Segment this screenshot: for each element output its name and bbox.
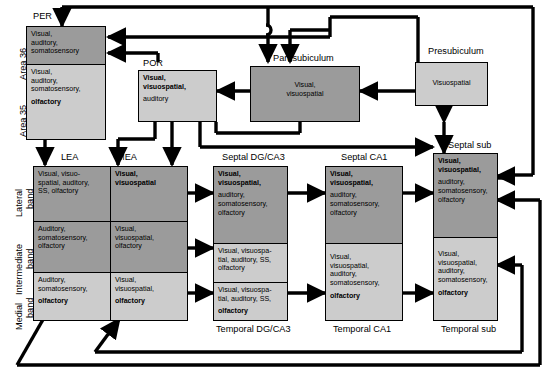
septal-ca1-text-bold: Visual, visuospatial, <box>326 167 402 190</box>
septal-sub-text-normal: auditory, somatosensory, olfactory <box>434 175 497 207</box>
label-septal-sub: Septal sub <box>448 140 491 150</box>
temporal-sub-text-normal: Visual, visuospatial, auditory, somatose… <box>434 238 497 288</box>
box-sub[interactable]: Visual, visuospatial, auditory, somatose… <box>433 153 498 321</box>
presubiculum-text: Visuospatial <box>416 63 487 91</box>
cell-temporal-sub[interactable]: Visual, visuospatial, auditory, somatose… <box>434 238 497 320</box>
cell-mea-lateral[interactable]: Visual, visuospatial <box>111 167 187 221</box>
cell-septal-dg-ca3[interactable]: Visual, visuospatial, auditory, somatose… <box>214 167 287 243</box>
mea-lateral-text: Visual, visuospatial <box>111 167 187 190</box>
box-ca1[interactable]: Visual, visuospatial, auditory, somatose… <box>325 166 403 321</box>
diagram-canvas: PER Area 36 Area 35 Visual, auditory, so… <box>0 0 547 374</box>
mid-dg-ca3-text: Visual, visuospa- tial, auditory, SS, ol… <box>214 244 287 276</box>
lea-medial-text-normal: Auditory, somatosensory, <box>34 273 110 296</box>
por-text-normal: auditory <box>139 92 216 107</box>
lea-lateral-text: Visual, visuo- spatial, auditory, SS, ol… <box>34 167 110 199</box>
label-lateral-band-1: Lateral <box>14 189 24 217</box>
cell-mid-dg-ca3[interactable]: Visual, visuospa- tial, auditory, SS, ol… <box>214 244 287 282</box>
cell-mea-medial[interactable]: Visual, visuospatial, olfactory <box>111 273 187 320</box>
box-presubiculum[interactable]: Visuospatial <box>415 62 488 106</box>
cell-area35[interactable]: Visual, auditory, somatosensory, olfacto… <box>27 65 105 139</box>
label-per: PER <box>33 11 52 21</box>
parasubiculum-text: Visual, visuospatial <box>251 67 359 101</box>
box-per[interactable]: Visual, auditory, somatosensory Visual, … <box>26 26 106 140</box>
temporal-ca1-text-bold: olfactory <box>326 289 402 304</box>
temporal-dg-ca3-text-bold: olfactory <box>214 304 287 319</box>
box-dg-ca3[interactable]: Visual, visuospatial, auditory, somatose… <box>213 166 288 321</box>
cell-mea-intermediate[interactable]: Visual, visuospatial, olfactory <box>111 222 187 272</box>
temporal-sub-text-bold: olfactory <box>434 286 497 301</box>
septal-ca1-text-normal: auditory, somatosensory, olfactory <box>326 188 402 220</box>
box-parasubiculum[interactable]: Visual, visuospatial <box>250 66 360 122</box>
label-mea: MEA <box>117 152 137 162</box>
cell-temporal-dg-ca3[interactable]: Visual, visuospa- tial, auditory, SS, ol… <box>214 283 287 320</box>
box-lea-mea-grid[interactable]: Visual, visuo- spatial, auditory, SS, ol… <box>33 166 188 321</box>
cell-temporal-ca1[interactable]: Visual, visuospatial, auditory, somatose… <box>326 244 402 320</box>
lea-medial-text-bold: olfactory <box>34 294 110 309</box>
area36-text-normal: Visual, auditory, somatosensory <box>27 27 105 59</box>
septal-dg-ca3-text-normal: auditory, somatosensory, olfactory <box>214 188 287 220</box>
label-medial-band-1: Medial <box>14 303 24 330</box>
label-por: POR <box>143 58 163 68</box>
area35-text-normal: Visual, auditory, somatosensory, <box>27 65 105 97</box>
label-intermediate-band-1: Intermediate <box>14 244 24 295</box>
label-temporal-sub: Temporal sub <box>441 324 496 334</box>
temporal-ca1-text-normal: Visual, visuospatial, auditory, somatose… <box>326 244 402 291</box>
box-por[interactable]: Visual, visuospatial, auditory <box>138 70 217 122</box>
label-presubiculum: Presubiculum <box>428 46 484 56</box>
mea-medial-text-bold: olfactory <box>111 294 187 309</box>
label-temporal-dg-ca3: Temporal DG/CA3 <box>216 324 291 334</box>
cell-area36[interactable]: Visual, auditory, somatosensory <box>27 27 105 64</box>
temporal-dg-ca3-text-normal: Visual, visuospa- tial, auditory, SS, <box>214 283 287 306</box>
septal-sub-text-bold: Visual, visuospatial, <box>434 154 497 177</box>
lea-intermediate-text: Auditory, somatosensory, olfactory <box>34 222 110 254</box>
cell-lea-intermediate[interactable]: Auditory, somatosensory, olfactory <box>34 222 110 272</box>
label-lea: LEA <box>61 152 78 162</box>
mea-medial-text-normal: Visual, visuospatial, <box>111 273 187 296</box>
label-septal-ca1: Septal CA1 <box>341 152 387 162</box>
cell-lea-lateral[interactable]: Visual, visuo- spatial, auditory, SS, ol… <box>34 167 110 221</box>
area35-text-bold: olfactory <box>27 95 105 110</box>
cell-septal-ca1[interactable]: Visual, visuospatial, auditory, somatose… <box>326 167 402 243</box>
cell-lea-medial[interactable]: Auditory, somatosensory, olfactory <box>34 273 110 320</box>
por-text-bold: Visual, visuospatial, <box>139 71 216 94</box>
cell-septal-sub[interactable]: Visual, visuospatial, auditory, somatose… <box>434 154 497 237</box>
label-septal-dg-ca3: Septal DG/CA3 <box>222 152 285 162</box>
mea-intermediate-text: Visual, visuospatial, olfactory <box>111 222 187 254</box>
septal-dg-ca3-text-bold: Visual, visuospatial, <box>214 167 287 190</box>
label-parasubiculum: Parasubiculum <box>273 53 334 63</box>
label-temporal-ca1: Temporal CA1 <box>333 324 391 334</box>
